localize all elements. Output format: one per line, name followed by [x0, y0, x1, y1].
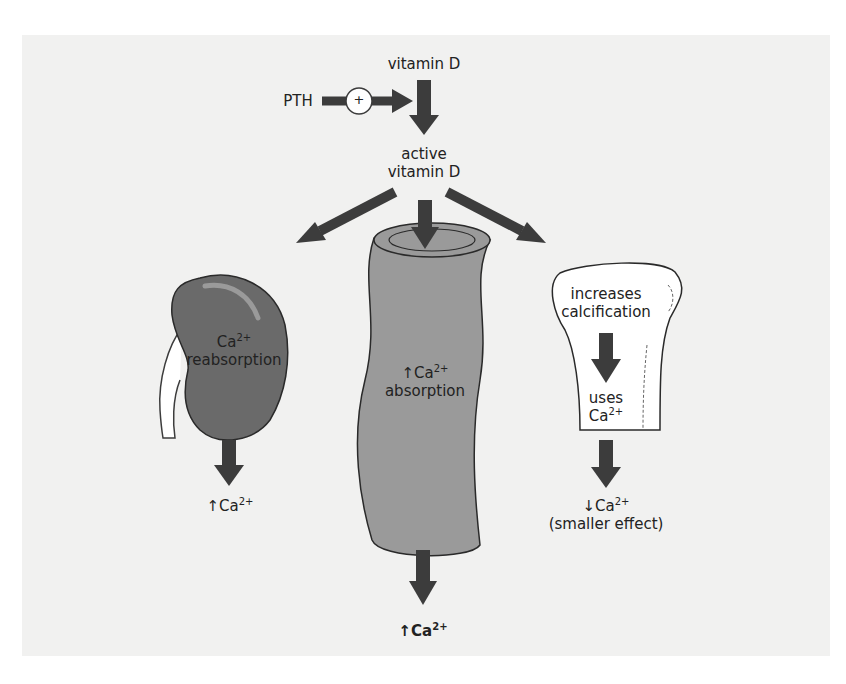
diagram-graphics — [0, 0, 846, 684]
kidney-label: Ca2+ reabsorption — [182, 333, 286, 369]
activation-arrow — [409, 80, 439, 135]
intestine-label: ↑Ca2+ absorption — [375, 364, 475, 400]
bone-uses-label: uses Ca2+ — [571, 389, 641, 425]
intestine-result-label: ↑Ca2+ — [388, 622, 458, 640]
kidney-result-arrow — [214, 440, 244, 486]
bone-result-arrow — [591, 440, 621, 488]
active-vitamin-d-label: active vitamin D — [374, 145, 474, 181]
pth-label: PTH — [278, 92, 318, 110]
intestine-result-arrow — [409, 550, 437, 605]
bone-result-label: ↓Ca2+ (smaller effect) — [546, 497, 666, 533]
kidney-result-label: ↑Ca2+ — [195, 497, 265, 515]
bone-label: increases calcification — [556, 285, 656, 321]
plus-sign: + — [349, 91, 369, 109]
vitamin-d-label: vitamin D — [374, 55, 474, 73]
